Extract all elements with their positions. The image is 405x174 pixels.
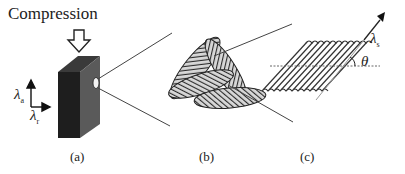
compression-arrow-icon	[68, 30, 90, 52]
sample-block	[58, 56, 100, 138]
lambda-s-subscript: s	[377, 40, 380, 49]
lambda-r-symbol: λ	[30, 107, 37, 123]
lambda-s-label: λs	[370, 30, 380, 47]
angle-arc-icon	[350, 57, 355, 66]
lambda-a-label: λa	[14, 86, 24, 103]
lambda-r-label: λr	[30, 107, 39, 124]
compression-label: Compression	[8, 4, 98, 24]
lambda-a-symbol: λ	[14, 86, 21, 102]
panel-label-c: (c)	[300, 149, 314, 165]
lambda-s-symbol: λ	[370, 30, 377, 46]
zoom-lines-a-b	[98, 33, 172, 126]
lambda-r-subscript: r	[37, 117, 40, 126]
lambda-a-subscript: a	[21, 96, 25, 105]
lamella-stack	[163, 31, 267, 111]
figure-canvas	[0, 0, 405, 174]
theta-label: θ	[361, 53, 368, 70]
panel-label-a: (a)	[70, 149, 84, 165]
panel-label-b: (b)	[199, 149, 214, 165]
